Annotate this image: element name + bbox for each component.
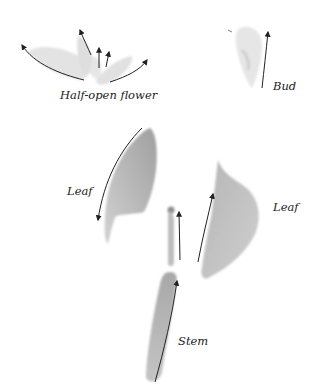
stem-upper-arrow — [179, 212, 180, 260]
bud-arrow — [262, 32, 268, 88]
leaf-right — [201, 160, 258, 279]
diagram-canvas — [0, 0, 310, 392]
stem-upper — [168, 207, 175, 267]
half-open-flower — [28, 36, 132, 85]
stem-lower — [146, 272, 177, 381]
label-leaf-left: Leaf — [67, 184, 93, 198]
leaf-left — [105, 128, 157, 244]
bud-mark — [228, 30, 232, 32]
label-bud: Bud — [273, 79, 296, 93]
bud — [236, 27, 262, 88]
label-leaf-right: Leaf — [273, 200, 299, 214]
label-stem: Stem — [178, 334, 208, 348]
label-half-open-flower: Half-open flower — [60, 88, 157, 102]
